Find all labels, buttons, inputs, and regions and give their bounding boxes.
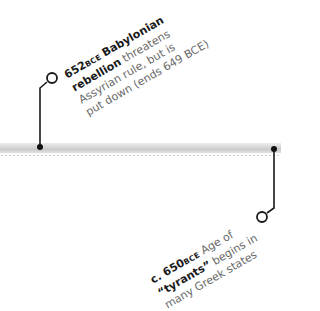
timeline-point-icon xyxy=(271,146,277,152)
timeline-point-icon xyxy=(37,144,43,150)
event-connector-652 xyxy=(37,73,57,150)
event-connector-650 xyxy=(257,146,277,222)
event-marker-ring-icon xyxy=(257,212,267,222)
event-marker-ring-icon xyxy=(47,73,57,83)
